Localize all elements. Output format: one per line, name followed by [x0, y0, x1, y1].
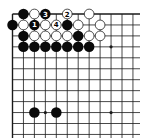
- black-stone-icon: [62, 20, 73, 31]
- black-stone: [7, 20, 18, 31]
- black-stone-icon: [51, 107, 62, 118]
- white-stone-icon: [73, 20, 83, 30]
- white-stone-icon: [40, 20, 50, 30]
- black-stone: [18, 42, 29, 53]
- black-stone: [62, 20, 73, 31]
- black-stone-icon: [29, 42, 40, 53]
- black-stone-icon: [84, 42, 95, 53]
- move-number-label: 2: [65, 11, 70, 19]
- black-stone-icon: [18, 42, 29, 53]
- white-stone-icon: [84, 9, 94, 19]
- move-number-label: 3: [43, 11, 48, 19]
- white-stone-icon: [95, 20, 105, 30]
- black-stone: [18, 9, 29, 20]
- white-stone: [40, 20, 50, 30]
- white-stone: [95, 31, 105, 41]
- white-stone-icon: [30, 31, 40, 41]
- black-stone-icon: [62, 42, 73, 53]
- black-stone: [29, 107, 40, 118]
- white-stone: [62, 31, 72, 41]
- white-stone-icon: [30, 9, 40, 19]
- white-stone: [51, 31, 61, 41]
- black-stone: [51, 107, 62, 118]
- black-stone-icon: [18, 9, 29, 20]
- white-stone-icon: [95, 31, 105, 41]
- black-stone-move-3: 3: [40, 9, 51, 20]
- black-stone-icon: [7, 20, 18, 31]
- white-stone-move-4: 4: [51, 20, 61, 30]
- white-stone-icon: [51, 31, 61, 41]
- black-stone-icon: [73, 31, 84, 42]
- white-stone: [95, 20, 105, 30]
- black-stone-icon: [40, 42, 51, 53]
- black-stone: [73, 31, 84, 42]
- star-point-icon: [109, 111, 112, 114]
- black-stone: [62, 42, 73, 53]
- go-board: 3214: [0, 0, 144, 138]
- black-stone: [18, 31, 29, 42]
- white-stone-move-2: 2: [62, 9, 72, 19]
- black-stone-icon: [29, 107, 40, 118]
- black-stone: [40, 42, 51, 53]
- white-stone-icon: [62, 31, 72, 41]
- black-stone: [51, 42, 62, 53]
- white-stone: [19, 20, 29, 30]
- move-number-label: 1: [32, 21, 37, 29]
- white-stone-icon: [40, 31, 50, 41]
- white-stone-icon: [19, 20, 29, 30]
- white-stone: [84, 31, 94, 41]
- star-point-icon: [109, 45, 112, 48]
- white-stone: [73, 20, 83, 30]
- white-stone: [30, 31, 40, 41]
- black-stone-icon: [18, 31, 29, 42]
- black-stone-move-1: 1: [29, 20, 40, 31]
- move-number-label: 4: [54, 21, 59, 29]
- black-stone-icon: [51, 42, 62, 53]
- white-stone-icon: [84, 31, 94, 41]
- black-stone-icon: [73, 42, 84, 53]
- white-stone: [30, 9, 40, 19]
- white-stone: [40, 31, 50, 41]
- star-point-icon: [44, 111, 47, 114]
- white-stone: [84, 9, 94, 19]
- black-stone: [29, 42, 40, 53]
- black-stone: [84, 42, 95, 53]
- black-stone: [73, 42, 84, 53]
